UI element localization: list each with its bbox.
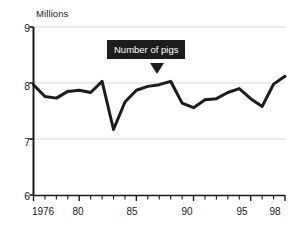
pigs-line-chart: Millions 9 8 7 6 1976 80 85 90 95 98 Num… — [0, 0, 298, 230]
data-series-line — [34, 76, 286, 129]
plot-area — [0, 0, 298, 230]
callout-label: Number of pigs — [114, 44, 178, 55]
callout-pointer-icon — [150, 63, 164, 74]
callout-box: Number of pigs — [107, 40, 185, 59]
